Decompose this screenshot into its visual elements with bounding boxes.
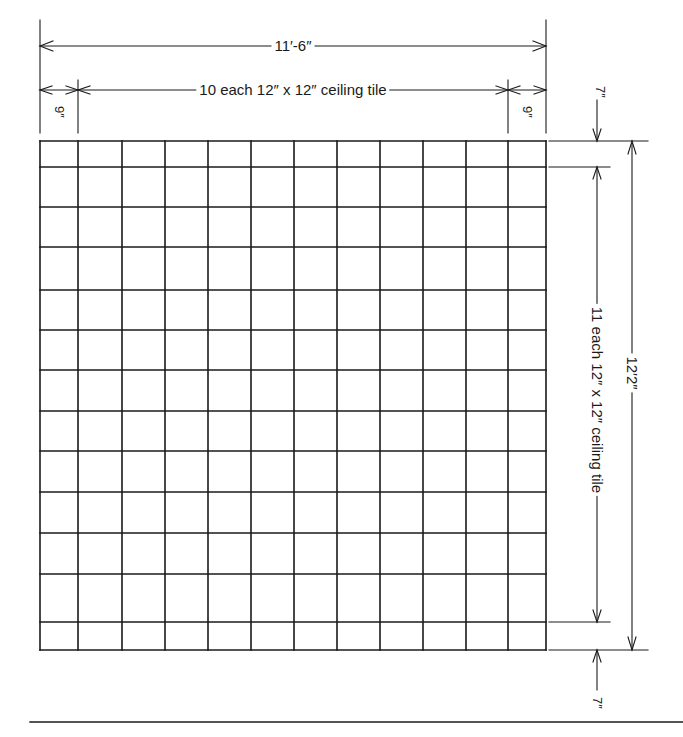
ceiling-tile-diagram: [0, 0, 683, 737]
tiles-down-label: 11 each 12″ x 12″ ceiling tile: [589, 304, 605, 496]
overall-width-label: 11′-6″: [271, 38, 314, 54]
right-border-label: 9″: [519, 105, 535, 119]
bottom-border-label: 7″: [589, 696, 605, 710]
bottom-border-dimension: [593, 650, 601, 690]
top-border-dimension: [593, 100, 601, 141]
left-border-label: 9″: [51, 105, 67, 119]
overall-height-dimension: [628, 141, 636, 650]
overall-height-label: 12′2″: [624, 353, 640, 392]
tile-grid: [40, 141, 546, 650]
tiles-across-label: 10 each 12″ x 12″ ceiling tile: [196, 82, 389, 98]
top-border-label: 7″: [592, 85, 608, 99]
